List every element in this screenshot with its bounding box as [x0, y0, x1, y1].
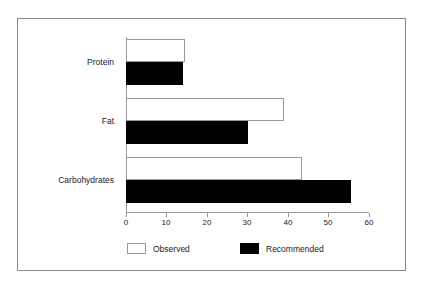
bar-observed-fat: [126, 98, 284, 121]
x-axis-tick-50: [328, 213, 329, 217]
x-axis-tick-label-20: 20: [203, 218, 212, 228]
x-axis-tick-60: [369, 213, 370, 217]
category-label-protein: Protein: [87, 57, 114, 67]
legend-swatch-recommended-icon: [240, 243, 259, 254]
legend-label-observed: Observed: [153, 244, 190, 254]
bar-observed-protein: [126, 39, 185, 62]
legend-item-observed: Observed: [127, 243, 190, 254]
x-axis-tick-label-60: 60: [365, 218, 374, 228]
x-axis-tick-label-10: 10: [162, 218, 171, 228]
x-axis-tick-0: [126, 213, 127, 217]
legend-item-recommended: Recommended: [240, 243, 324, 254]
x-axis-tick-label-50: 50: [324, 218, 333, 228]
chart-figure: 0 10 20 30 40 50 60 Protein Fat Carbohyd…: [0, 0, 422, 288]
x-axis-tick-label-30: 30: [243, 218, 252, 228]
x-axis-tick-label-0: 0: [124, 218, 128, 228]
x-axis-tick-10: [166, 213, 167, 217]
x-axis-tick-40: [288, 213, 289, 217]
category-label-carbohydrates: Carbohydrates: [58, 175, 114, 185]
x-axis-tick-label-40: 40: [284, 218, 293, 228]
x-axis-tick-20: [207, 213, 208, 217]
legend-label-recommended: Recommended: [266, 244, 324, 254]
plot-area: 0 10 20 30 40 50 60 Protein Fat Carbohyd…: [0, 0, 422, 288]
legend-swatch-observed-icon: [127, 243, 146, 254]
x-axis-tick-30: [247, 213, 248, 217]
bar-recommended-fat: [126, 121, 248, 144]
category-label-fat: Fat: [102, 116, 114, 126]
bar-recommended-protein: [126, 62, 183, 85]
bar-recommended-carbohydrates: [126, 180, 351, 203]
bar-observed-carbohydrates: [126, 157, 302, 180]
